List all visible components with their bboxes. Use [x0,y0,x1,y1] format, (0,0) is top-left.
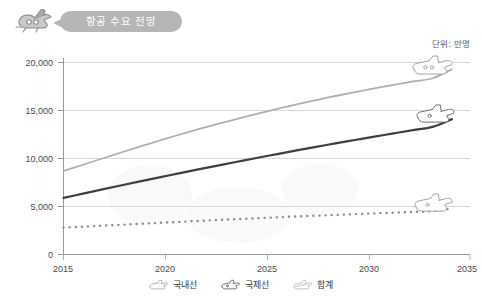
legend-label: 국제선 [245,281,269,290]
y-tick-label: 5,000 [30,202,53,212]
legend-item-total[interactable]: 합계 [293,279,333,291]
x-tick-label: 2025 [257,264,277,274]
x-tick-label: 2030 [359,264,379,274]
x-tick-label: 2015 [53,264,73,274]
chart-page: 항공 수요 전망 단위: 만명 [0,0,482,304]
x-tick-label: 2035 [457,264,477,274]
legend-item-international[interactable]: 국제선 [221,279,269,291]
airplane-icon [221,279,240,291]
background-watermark [108,164,358,243]
x-tick-label: 2020 [155,264,175,274]
legend-item-domestic[interactable]: 국내선 [149,279,197,291]
legend-label: 합계 [317,281,333,290]
chart-legend: 국내선 국제선 합계 [0,274,482,296]
series-end-marker-international [417,105,454,122]
y-axis-ticks [58,63,63,255]
line-chart: 20,000 15,000 10,000 5,000 0 2015 2020 2… [0,0,482,304]
chart-area: 20,000 15,000 10,000 5,000 0 2015 2020 2… [0,0,482,304]
legend-label: 국내선 [173,281,197,290]
airplane-icon [293,279,312,291]
series-end-marker-domestic [415,194,452,211]
y-tick-label: 15,000 [25,106,53,116]
y-tick-label: 20,000 [25,58,53,68]
airplane-icon [149,279,168,291]
y-tick-label: 0 [48,250,53,260]
series-line-total [64,69,453,171]
y-tick-label: 10,000 [25,154,53,164]
x-axis-ticks [64,255,471,261]
series-end-marker-total [413,56,452,74]
